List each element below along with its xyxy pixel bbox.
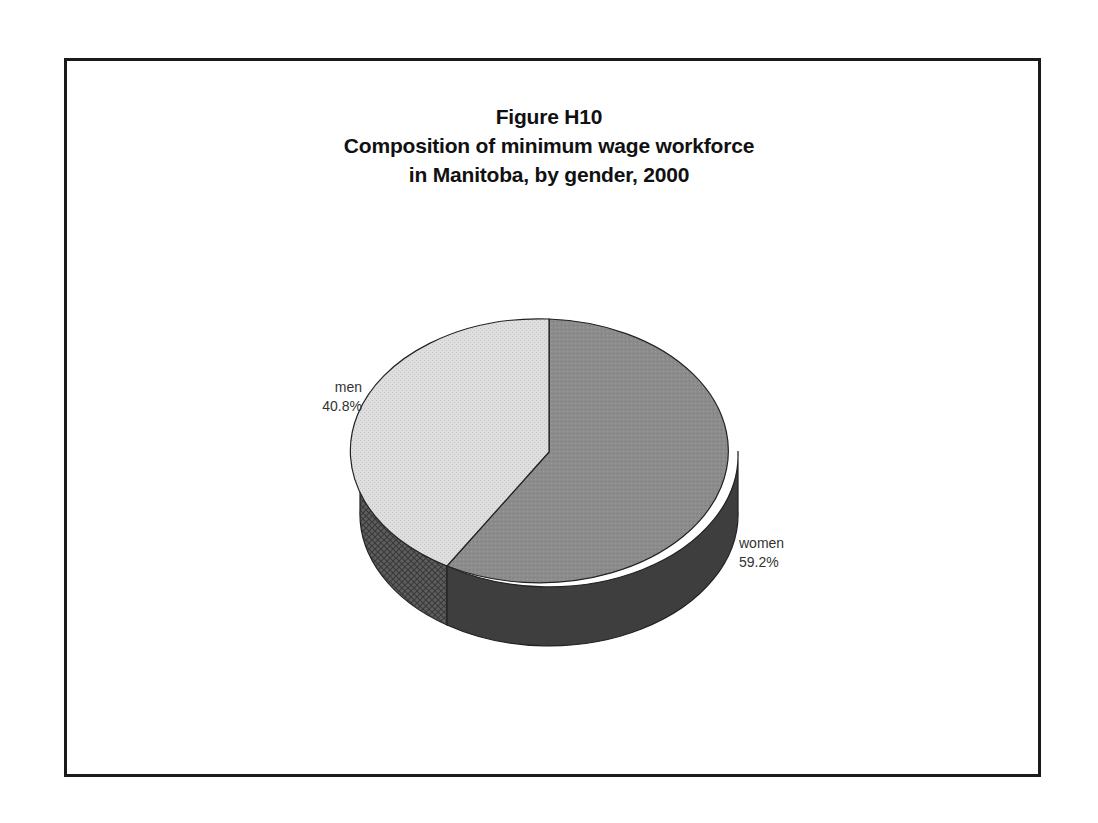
women-data-label: women 59.2% bbox=[739, 534, 819, 572]
women-label-value: 59.2% bbox=[739, 553, 819, 572]
pie-chart bbox=[0, 0, 1098, 823]
men-label-value: 40.8% bbox=[300, 397, 362, 416]
women-label-name: women bbox=[739, 534, 819, 553]
men-label-name: men bbox=[300, 378, 362, 397]
men-data-label: men 40.8% bbox=[300, 378, 362, 416]
